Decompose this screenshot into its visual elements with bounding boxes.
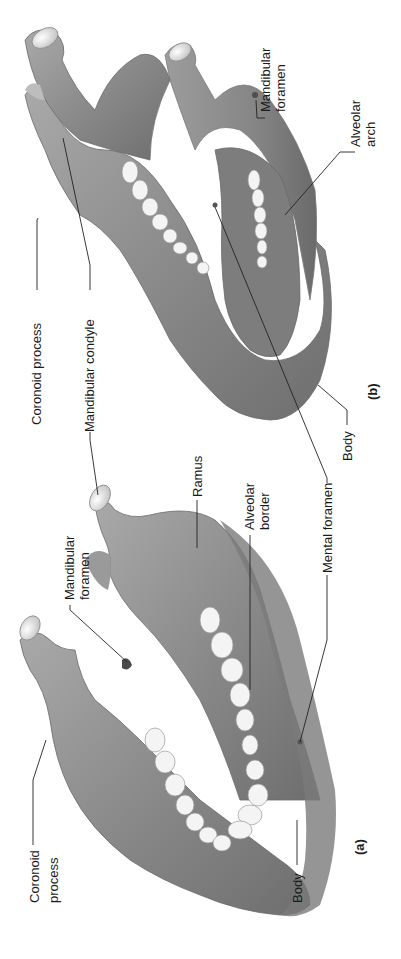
label-b-alveolar-arch-line2: arch <box>363 122 378 147</box>
label-b-mandibular-condyle: Mandibular condyle <box>82 319 97 432</box>
label-a-alveolar-border-line1: Alveolar <box>242 483 257 530</box>
label-b-mandibular-foramen-line1: Mandibular <box>258 48 273 112</box>
label-a-coronoid-process-line2: process <box>46 857 61 903</box>
mandible-figure: Coronoid process Mandibular condyle Mand… <box>0 0 401 959</box>
label-a-mandibular-foramen-line2: foramen <box>77 552 92 600</box>
label-a-body: Body <box>290 873 305 903</box>
label-a-ramus: Ramus <box>190 456 205 497</box>
label-a-mental-foramen: Mental foramen <box>320 483 335 573</box>
label-b-mandibular-foramen-line2: foramen <box>273 64 288 112</box>
label-b-coronoid-process: Coronoid process <box>29 323 44 425</box>
label-a-mandibular-foramen-line1: Mandibular <box>62 536 77 600</box>
label-b-alveolar-arch-line1: Alveolar <box>348 100 363 147</box>
label-a-alveolar-border-line2: border <box>257 492 272 530</box>
label-b-body: Body <box>340 431 355 461</box>
panel-b-label: (b) <box>365 383 380 400</box>
panel-a-label: (a) <box>352 839 367 855</box>
label-a-coronoid-process-line1: Coronoid <box>27 850 42 903</box>
